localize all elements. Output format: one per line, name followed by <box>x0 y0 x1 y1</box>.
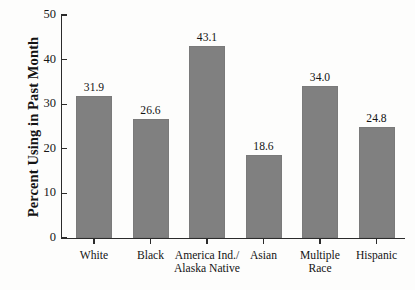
bar-value-label: 26.6 <box>123 104 179 117</box>
x-tick-mark <box>206 239 207 244</box>
bar <box>359 127 395 238</box>
y-tick-mark <box>62 59 67 60</box>
bar-value-label: 43.1 <box>179 31 235 44</box>
y-tick-label: 0 <box>30 230 56 245</box>
x-tick-mark <box>376 239 377 244</box>
y-tick-label: 10 <box>30 185 56 200</box>
x-tick-mark <box>150 239 151 244</box>
y-tick-mark <box>62 193 67 194</box>
y-tick-label: 50 <box>30 7 56 22</box>
bar-chart: Percent Using in Past Month 01020304050 … <box>0 0 415 290</box>
bar <box>246 155 282 238</box>
y-tick-label: 30 <box>30 96 56 111</box>
bar <box>302 86 338 238</box>
bar-value-label: 24.8 <box>349 112 405 125</box>
x-category-label: Hispanic <box>343 250 411 263</box>
bar-value-label: 31.9 <box>66 81 122 94</box>
y-axis-line <box>61 14 62 239</box>
bar-value-label: 34.0 <box>292 71 348 84</box>
y-tick-label: 40 <box>30 52 56 67</box>
y-tick-mark <box>62 104 67 105</box>
y-tick-mark <box>62 14 67 15</box>
bar <box>189 46 225 238</box>
bar <box>133 119 169 238</box>
bar <box>76 96 112 238</box>
x-tick-mark <box>93 239 94 244</box>
y-tick-label: 20 <box>30 141 56 156</box>
x-axis-line <box>61 238 405 239</box>
x-tick-mark <box>319 239 320 244</box>
y-axis-title: Percent Using in Past Month <box>22 7 44 247</box>
bar-value-label: 18.6 <box>236 140 292 153</box>
y-tick-mark <box>62 148 67 149</box>
x-tick-mark <box>263 239 264 244</box>
y-tick-mark <box>62 237 67 238</box>
